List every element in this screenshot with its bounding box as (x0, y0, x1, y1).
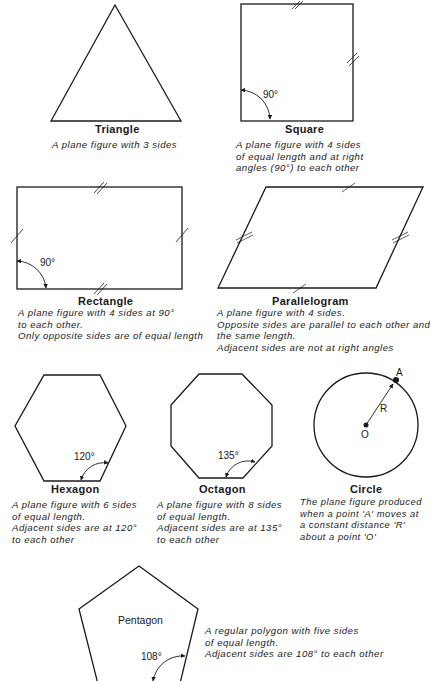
octagon-shape (171, 374, 272, 478)
parallelogram-description: A plane figure with 4 sides. Opposite si… (217, 307, 430, 353)
square-description: A plane figure with 4 sides of equal len… (236, 139, 364, 174)
hexagon-description: A plane figure with 6 sides of equal len… (12, 499, 137, 545)
circle-center-point (364, 423, 369, 428)
rectangle-title: Rectangle (78, 295, 133, 307)
circle-radius-label: R (380, 403, 387, 414)
rectangle-description: A plane figure with 4 sides at 90° to ea… (18, 307, 203, 342)
octagon-title: Octagon (199, 483, 246, 495)
triangle-title: Triangle (95, 123, 140, 135)
parallelogram-tick-marks (236, 183, 409, 293)
hexagon-angle-label: 120° (74, 451, 95, 462)
rectangle-shape (17, 187, 182, 289)
triangle-shape (51, 5, 181, 121)
rectangle-tick-marks (11, 182, 188, 295)
pentagon-angle-label: 108° (141, 651, 162, 662)
square-tick-marks (292, 1, 359, 66)
square-title: Square (285, 123, 324, 135)
circle-title: Circle (350, 483, 382, 495)
rectangle-angle-label: 90° (40, 257, 55, 268)
octagon-angle-label: 135° (218, 450, 239, 461)
square-shape (241, 4, 353, 121)
triangle-description: A plane figure with 3 sides (52, 139, 177, 151)
pentagon-title: Pentagon (118, 614, 163, 626)
circle-center-label: O (361, 429, 369, 440)
circle-point-a-label: A (396, 367, 403, 378)
octagon-description: A plane figure with 8 sides of equal len… (157, 499, 282, 545)
hexagon-shape (15, 375, 126, 481)
hexagon-title: Hexagon (51, 483, 100, 495)
square-angle-label: 90° (263, 89, 278, 100)
parallelogram-title: Parallelogram (272, 295, 349, 307)
circle-description: The plane figure produced when a point '… (300, 496, 422, 542)
pentagon-description: A regular polygon with five sides of equ… (205, 625, 384, 660)
